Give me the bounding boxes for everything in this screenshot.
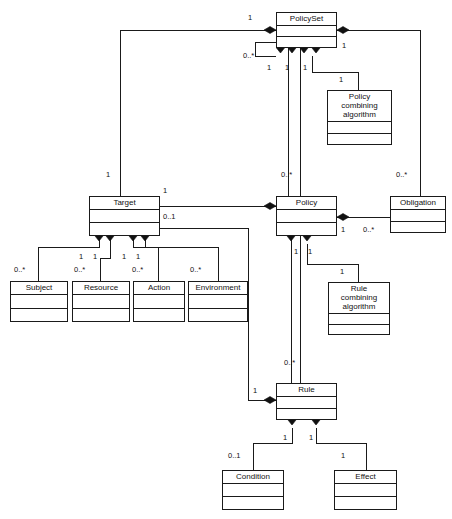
- multiplicity-m-target-rule: 0..1: [163, 213, 176, 221]
- uml-class-name-policy: Policy: [277, 197, 336, 210]
- uml-class-target[interactable]: Target: [89, 196, 160, 236]
- uml-class-operations-resource: [73, 309, 129, 322]
- multiplicity-m-ps-policy: 1: [285, 64, 289, 72]
- uml-class-attributes-rule: [277, 397, 336, 409]
- edge-target-subject-run: [38, 236, 99, 281]
- multiplicity-m-policy-rca-1: 1: [308, 248, 312, 256]
- multiplicity-m-effect: 1: [341, 452, 345, 460]
- multiplicity-m-target-sub-b: 1: [93, 253, 97, 261]
- uml-class-name-obligation: Obligation: [391, 197, 445, 210]
- uml-class-operations-target: [90, 223, 159, 235]
- edge-policyset-pca-run: [312, 56, 358, 90]
- multiplicity-m-ps-pca-top: 1: [303, 64, 307, 72]
- multiplicity-m-rule-up: 0..*: [284, 359, 295, 367]
- multiplicity-m-ps-target: 1: [267, 64, 271, 72]
- uml-class-resource[interactable]: Resource: [72, 281, 130, 322]
- multiplicity-m-rule-eff-1: 1: [309, 434, 313, 442]
- multiplicity-m-target-up: 1: [106, 171, 110, 179]
- uml-class-attributes-obligation: [391, 210, 445, 222]
- uml-class-attributes-subject: [11, 295, 67, 309]
- multiplicity-m-target-sub-c: 1: [122, 253, 126, 261]
- uml-class-operations-action: [134, 309, 184, 322]
- uml-class-operations-rule: [277, 409, 336, 420]
- uml-class-environment[interactable]: Environment: [188, 281, 248, 322]
- multiplicity-m-oblig-up: 0..*: [396, 171, 407, 179]
- uml-class-name-policyset: PolicySet: [277, 13, 336, 26]
- uml-class-name-effect: Effect: [335, 471, 396, 484]
- uml-class-name-rule: Rule: [277, 384, 336, 397]
- diamond-policy-left: [264, 203, 276, 210]
- uml-class-attributes-policy: [277, 210, 336, 223]
- multiplicity-m-target-right-1: 1: [163, 187, 167, 195]
- uml-class-name-condition: Condition: [223, 471, 283, 484]
- uml-class-diagram-canvas: PolicySetPolicycombiningalgorithmTargetP…: [0, 0, 452, 519]
- uml-class-operations-pca: [328, 134, 391, 145]
- uml-class-attributes-rca: [329, 314, 389, 325]
- edge-policyset-self-loop: [255, 42, 276, 56]
- diamond-policyset-left: [264, 27, 276, 34]
- uml-class-action[interactable]: Action: [133, 281, 185, 322]
- multiplicity-m-pca: 1: [339, 76, 343, 84]
- uml-class-operations-policy: [277, 223, 336, 235]
- multiplicity-m-resource: 0..*: [74, 266, 85, 274]
- diamond-policy-right: [337, 214, 349, 221]
- multiplicity-m-rule-cond-1: 1: [283, 434, 287, 442]
- multiplicity-m-ps-self-left: 1: [248, 14, 252, 22]
- multiplicity-m-ps-self-down: 0..*: [243, 52, 254, 60]
- uml-class-effect[interactable]: Effect: [334, 470, 397, 510]
- uml-class-operations-obligation: [391, 222, 445, 233]
- uml-class-attributes-condition: [223, 484, 283, 497]
- multiplicity-m-target-sub-a: 1: [79, 253, 83, 261]
- uml-class-attributes-policyset: [277, 26, 336, 37]
- uml-class-name-target: Target: [90, 197, 159, 210]
- multiplicity-m-rca: 1: [340, 268, 344, 276]
- multiplicity-m-action: 0..*: [132, 266, 143, 274]
- uml-class-rca[interactable]: Rulecombiningalgorithm: [328, 282, 390, 335]
- uml-class-name-action: Action: [134, 282, 184, 295]
- edge-rule-effect-run: [316, 428, 366, 470]
- multiplicity-m-policy-oblig-1: 1: [341, 226, 345, 234]
- uml-class-operations-rca: [329, 325, 389, 335]
- edge-policy-rca-run: [307, 244, 358, 282]
- diagram-connectors: [0, 0, 452, 519]
- uml-class-pca[interactable]: Policycombiningalgorithm: [327, 90, 392, 145]
- uml-class-operations-condition: [223, 497, 283, 509]
- uml-class-policy[interactable]: Policy: [276, 196, 337, 236]
- uml-class-attributes-effect: [335, 484, 396, 497]
- uml-class-name-resource: Resource: [73, 282, 129, 295]
- uml-class-attributes-action: [134, 295, 184, 309]
- multiplicity-m-subject: 0..*: [14, 266, 25, 274]
- multiplicity-m-condition: 0..1: [228, 452, 241, 460]
- multiplicity-m-policy-rule-1: 1: [294, 248, 298, 256]
- diamond-policyset-right: [337, 27, 349, 34]
- uml-class-operations-subject: [11, 309, 67, 322]
- multiplicity-m-rule-target: 1: [253, 387, 257, 395]
- uml-class-condition[interactable]: Condition: [222, 470, 284, 510]
- uml-class-name-pca: Policycombiningalgorithm: [328, 91, 391, 122]
- uml-class-attributes-pca: [328, 122, 391, 134]
- uml-class-name-subject: Subject: [11, 282, 67, 295]
- edge-target-resource-run: [100, 236, 110, 281]
- uml-class-attributes-environment: [189, 295, 247, 309]
- uml-class-operations-environment: [189, 309, 247, 322]
- multiplicity-m-environment: 0..*: [190, 266, 201, 274]
- uml-class-name-rca: Rulecombiningalgorithm: [329, 283, 389, 314]
- multiplicity-m-ps-oblig: 1: [342, 42, 346, 50]
- uml-class-subject[interactable]: Subject: [10, 281, 68, 322]
- multiplicity-m-target-sub-d: 1: [136, 253, 140, 261]
- diamond-rule-left: [264, 397, 276, 404]
- edge-target-environment-run: [145, 236, 218, 281]
- uml-class-operations-policyset: [277, 37, 336, 47]
- multiplicity-m-policy-up: 0..*: [281, 171, 292, 179]
- uml-class-operations-effect: [335, 497, 396, 509]
- uml-class-rule[interactable]: Rule: [276, 383, 337, 420]
- multiplicity-m-policy-oblig-n: 0..*: [363, 226, 374, 234]
- uml-class-name-environment: Environment: [189, 282, 247, 295]
- uml-class-attributes-target: [90, 210, 159, 223]
- uml-class-attributes-resource: [73, 295, 129, 309]
- uml-class-policyset[interactable]: PolicySet: [276, 12, 337, 48]
- uml-class-obligation[interactable]: Obligation: [390, 196, 446, 233]
